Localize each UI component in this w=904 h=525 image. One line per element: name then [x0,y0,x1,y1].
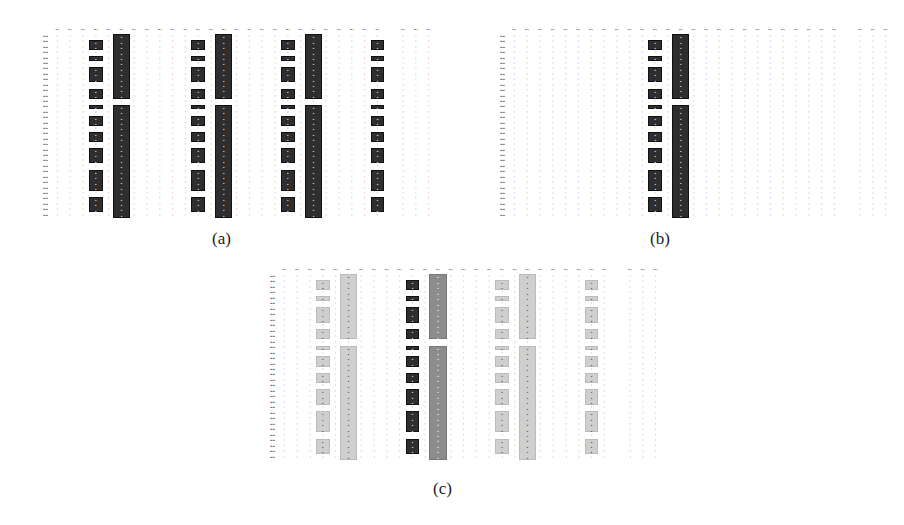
highlight-block: ▪▪ [316,373,329,383]
column-header: ▬ ╥ [560,268,573,271]
highlight-block: ▪ [89,105,102,110]
highlight-block: ▪▪ [371,89,384,99]
highlight-block: ▪▪▪▪ [89,170,102,191]
column-header: ▬ ╥ [777,28,790,31]
table-cell: • [764,213,777,218]
panel-b-label: (b) [650,229,670,249]
table-cell: • [406,274,419,279]
highlight-block: ▪▪ [281,89,294,99]
table-cell: • [444,455,457,460]
table-cell: • [316,323,329,328]
table-cell: • [281,126,294,131]
table-cell: • [406,340,419,345]
table-cell: • [371,50,384,55]
table-cell: • [406,301,419,306]
highlight-block: ▪▪▪ [89,148,102,163]
table-cell: • [294,213,307,218]
highlight-block: ▪▪▪▪ [495,411,508,432]
column-header: ▬ ╥ [585,28,598,31]
table-cell: • [371,142,384,147]
table-cell: • [534,213,547,218]
column-header: ▬ ╥ [726,28,739,31]
panel-a-label: (a) [212,229,231,249]
row-label: ▬▬ [35,213,48,218]
column-header: ▬ ╥ [751,28,764,31]
table-cell: • [585,301,598,306]
table-cell: • [333,213,346,218]
highlight-block: ▪▪▪ [89,67,102,82]
column-header: ▬ ╥ [406,268,419,271]
highlight-block: ▪▪▪ [371,67,384,82]
highlight-block: ▪▪ [648,132,661,142]
highlight-block: ▪▪▪ [406,307,419,323]
highlight-block: ▪▪ [89,89,102,99]
table-cell: • [192,142,205,147]
table-cell: • [496,340,509,345]
table-cell: • [802,213,815,218]
table-cell: • [508,213,521,218]
highlight-block: ▪▪▪ [648,148,661,163]
table-cell: • [649,164,662,169]
highlight-block: ▪▪ [648,116,661,126]
table-cell: • [192,50,205,55]
table-cell: • [585,274,598,279]
highlight-block: ▪▪ [316,356,329,366]
column-header: ▬ ╥ [547,268,560,271]
table-cell: • [623,213,636,218]
panel-b: ▬ ╥▬ ╥▬ ╥▬ ╥▬ ╥▬ ╥▬ ╥▬ ╥▬ ╥▬ ╥▬ ╥▬ ╥▬ ╥▬… [492,28,892,218]
table-cell: • [521,340,534,345]
table-cell: • [281,83,294,88]
highlight-block: ▪ [648,56,661,61]
table-cell: • [751,213,764,218]
table-cell: • [371,213,384,218]
highlight-block: ▪ [585,296,598,301]
column-header: ▬ ╥ [102,28,115,31]
column-header: ▬ ╥ [483,268,496,271]
highlight-block: ▪▪ [495,373,508,383]
column-header: ▬ ╥ [508,268,521,271]
column-header: ▬ ╥ [179,28,192,31]
table-cell: • [281,61,294,66]
table-cell: • [777,213,790,218]
table-cell: • [406,367,419,372]
table-cell: • [585,383,598,388]
highlight-block: ▪▪ [89,132,102,142]
column-header: ▬ ╥ [572,28,585,31]
column-header: ▬ ╥ [141,28,154,31]
column-header: ▬ ╥ [854,28,867,31]
column-header: ▬ ╥ [205,28,218,31]
table-cell: • [585,405,598,410]
table-cell: • [496,274,509,279]
table-cell: • [496,290,509,295]
table-cell: • [406,290,419,295]
table-cell: • [179,213,192,218]
column-header: ▬ ╥ [521,28,534,31]
highlight-block: ▪▪▪ [281,148,294,163]
table-cell: • [496,383,509,388]
table-cell: • [585,290,598,295]
table-cell: • [281,213,294,218]
highlight-block: ▪▪ [191,89,204,99]
table-cell: • [649,83,662,88]
table-cell: • [726,213,739,218]
table-cell: • [496,351,509,356]
highlight-block: ▪ [316,346,329,351]
column-header: ▬ ╥ [269,28,282,31]
panel-a: ▬ ╥▬ ╥▬ ╥▬ ╥▬ ╥▬ ╥▬ ╥▬ ╥▬ ╥▬ ╥▬ ╥▬ ╥▬ ╥▬… [35,28,435,218]
column-header: ▬ ╥ [649,28,662,31]
table-cell: • [89,50,102,55]
table-cell: • [316,405,329,410]
table-cell: • [422,213,435,218]
highlight-block: ▪▪ [371,40,384,50]
table-cell: • [128,213,141,218]
column-header: ▬ ╥ [358,28,371,31]
table-cell: • [585,323,598,328]
column-header: ▬ ╥ [866,28,879,31]
table-cell: • [371,164,384,169]
table-cell: • [508,455,521,460]
table-cell: • [89,61,102,66]
table-cell: • [483,455,496,460]
table-cell: • [307,99,320,104]
table-cell: • [89,34,102,39]
column-header: ▬ ╥ [521,268,534,271]
